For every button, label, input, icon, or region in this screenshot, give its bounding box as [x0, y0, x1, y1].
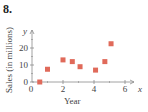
data-point	[102, 59, 107, 64]
y-tick-label: 10	[19, 60, 29, 70]
data-point	[78, 64, 83, 69]
scatter-plot: 024601020xyYearSales (in millions)	[0, 0, 148, 112]
data-point	[93, 68, 98, 73]
data-point	[70, 59, 75, 64]
data-point	[45, 67, 50, 72]
x-tick-label: 2	[61, 84, 66, 94]
y-tick-label: 20	[19, 43, 29, 53]
data-point	[37, 80, 42, 85]
x-tick-label: 4	[92, 84, 97, 94]
y-tick-label: 0	[24, 77, 29, 87]
y-axis-title: Sales (in millions)	[4, 27, 14, 93]
x-axis-title: Year	[64, 96, 81, 106]
data-point	[109, 41, 114, 46]
x-tick-label: 0	[29, 84, 34, 94]
y-variable-label: y	[22, 26, 27, 36]
data-point	[61, 57, 66, 62]
x-tick-label: 6	[123, 84, 128, 94]
x-variable-label: x	[137, 84, 142, 94]
